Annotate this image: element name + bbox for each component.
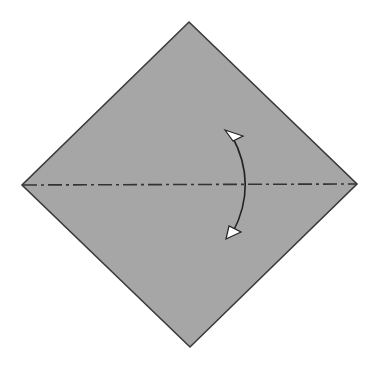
origami-diagram [0, 0, 383, 373]
